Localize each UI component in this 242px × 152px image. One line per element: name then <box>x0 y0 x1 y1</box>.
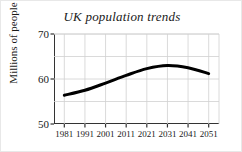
chart-title: UK population trends <box>1 9 242 25</box>
x-tick-label: 1991 <box>76 129 94 139</box>
x-tick-label: 2041 <box>179 129 197 139</box>
chart-figure: UK population trends Millions of people … <box>0 0 242 152</box>
y-tick-label: 60 <box>38 73 49 85</box>
y-tick-label: 70 <box>38 28 49 40</box>
x-tick-label: 1981 <box>55 129 73 139</box>
x-tick-label: 2051 <box>200 129 218 139</box>
y-axis-label: Millions of people <box>7 0 19 93</box>
data-series-line <box>54 34 219 124</box>
plot-wrapper: 506070 19811991200120112021203120412051 <box>54 34 219 124</box>
y-tick-label: 50 <box>38 118 49 130</box>
x-tick-label: 2011 <box>117 129 135 139</box>
x-tick-label: 2031 <box>158 129 176 139</box>
x-tick-label: 2021 <box>138 129 156 139</box>
x-tick-label: 2001 <box>97 129 115 139</box>
